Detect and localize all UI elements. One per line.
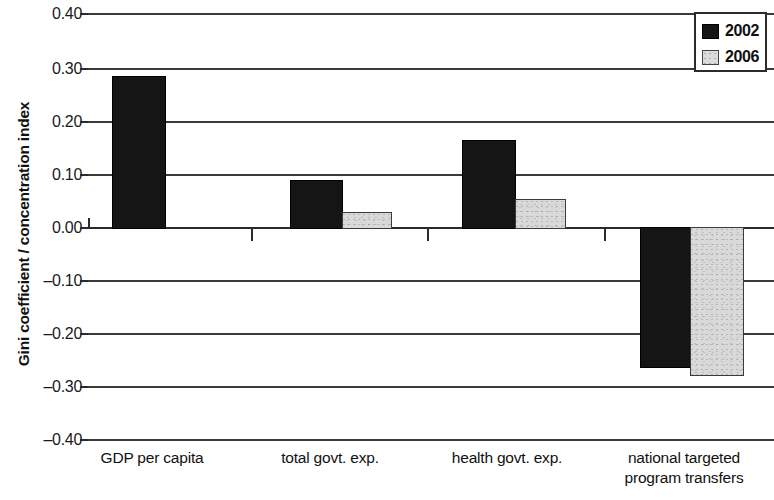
gridline-0.20 [88, 121, 774, 123]
bar-gdp-per-capita-2002 [112, 76, 166, 229]
x-axis-label-line1: health govt. exp. [417, 448, 597, 468]
legend-item-2006: 2006 [702, 44, 765, 70]
plot-area [88, 0, 774, 500]
legend-label-2006: 2006 [725, 48, 759, 66]
bar-total-govt-exp-2006 [342, 212, 392, 229]
zero-axis-left-stub [88, 218, 90, 229]
group-tick-3 [604, 229, 606, 241]
y-axis-tick-labels: 0.40 0.30 0.20 0.10 0.00 –0.10 –0.20 –0.… [26, 0, 82, 500]
y-tick-label-5: –0.10 [26, 273, 82, 289]
gridline-0.30 [88, 68, 774, 70]
y-tick-label-2: 0.20 [26, 114, 82, 130]
group-tick-1 [251, 229, 253, 241]
bar-national-targeted-program-transfers-2002 [640, 227, 691, 368]
gridline-0.40 [88, 13, 774, 15]
x-axis-label-national-targeted-program-transfers: national targeted program transfers [594, 448, 774, 488]
y-tick-label-7: –0.30 [26, 379, 82, 395]
y-tick-label-0: 0.40 [26, 6, 82, 22]
x-axis-label-line1: national targeted [594, 448, 774, 468]
y-tick-label-4: 0.00 [26, 220, 82, 236]
gridline-0.10 [88, 174, 774, 176]
y-tick-label-8: –0.40 [26, 432, 82, 448]
bar-health-govt-exp-2006 [515, 199, 566, 229]
y-tick-label-6: –0.20 [26, 326, 82, 342]
bar-total-govt-exp-2002 [290, 180, 343, 229]
gridline--0.30 [88, 386, 774, 388]
bar-chart: Gini coefficient / concentration index 0… [0, 0, 774, 500]
x-axis-label-gdp-per-capita: GDP per capita [62, 448, 242, 468]
y-tick-label-3: 0.10 [26, 167, 82, 183]
legend-label-2002: 2002 [725, 22, 759, 40]
x-axis-label-line1: GDP per capita [62, 448, 242, 468]
legend-swatch-2006 [702, 50, 719, 65]
legend-swatch-2002 [702, 24, 719, 39]
x-axis-label-total-govt-exp: total govt. exp. [240, 448, 420, 468]
x-axis-label-line1: total govt. exp. [240, 448, 420, 468]
bar-national-targeted-program-transfers-2006 [690, 227, 744, 376]
bar-health-govt-exp-2002 [462, 140, 516, 229]
legend: 2002 2006 [694, 12, 767, 72]
y-tick-label-1: 0.30 [26, 61, 82, 77]
gridline--0.40 [88, 439, 774, 441]
group-tick-2 [427, 229, 429, 241]
x-axis-label-line2: program transfers [594, 468, 774, 488]
legend-item-2002: 2002 [702, 18, 765, 44]
x-axis-label-health-govt-exp: health govt. exp. [417, 448, 597, 468]
